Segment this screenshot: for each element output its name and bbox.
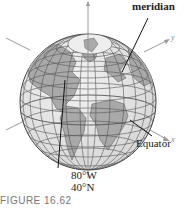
meridian-label: meridian <box>132 0 175 12</box>
longitude-label: 80°W <box>71 169 97 181</box>
y-axis-label: y <box>171 33 175 42</box>
equator-label: Equator <box>136 137 171 149</box>
x-axis-label: x <box>171 135 175 144</box>
latitude-label: 40°N <box>71 181 94 193</box>
figure-caption: FIGURE 16.62 <box>0 195 72 206</box>
